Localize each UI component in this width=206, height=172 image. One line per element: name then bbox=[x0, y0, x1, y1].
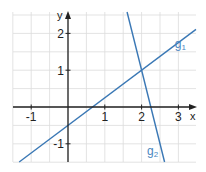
y-tick-label: 2 bbox=[57, 27, 64, 41]
x-tick-label: 1 bbox=[101, 110, 108, 124]
label-g2: g2 bbox=[147, 144, 159, 159]
y-tick-label: 1 bbox=[57, 64, 64, 78]
x-tick-label: -1 bbox=[26, 110, 37, 124]
x-axis-label: x bbox=[190, 110, 196, 122]
y-tick-label: -1 bbox=[53, 137, 64, 151]
label-main: g bbox=[175, 37, 182, 51]
label-subscript: 1 bbox=[181, 43, 186, 52]
line-labels: g1g2 bbox=[147, 37, 186, 159]
x-tick-label: 3 bbox=[175, 110, 182, 124]
line-g2 bbox=[127, 12, 165, 162]
label-subscript: 2 bbox=[154, 150, 159, 159]
x-tick-label: 2 bbox=[138, 110, 145, 124]
chart: x y -112321-1 g1g2 bbox=[0, 0, 206, 172]
y-axis-label: y bbox=[57, 9, 63, 21]
line-g1 bbox=[19, 29, 196, 162]
label-g1: g1 bbox=[175, 37, 187, 52]
lines bbox=[19, 12, 196, 162]
grid bbox=[13, 12, 196, 162]
label-main: g bbox=[147, 144, 154, 158]
